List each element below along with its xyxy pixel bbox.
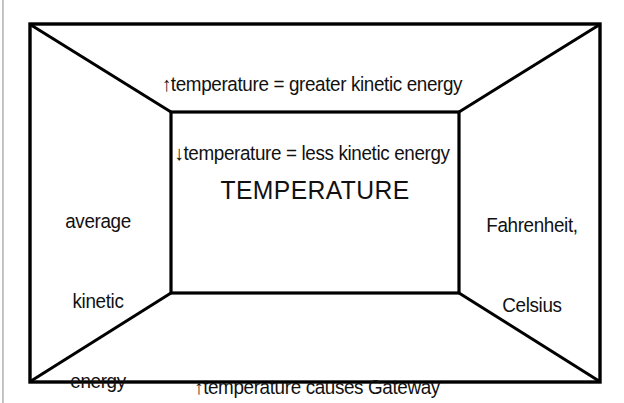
frayer-model-diagram: ↑temperature = greater kinetic energy ↓t… <box>0 0 624 403</box>
diagram-frame-svg <box>0 0 624 403</box>
inner-rectangle <box>171 112 459 293</box>
